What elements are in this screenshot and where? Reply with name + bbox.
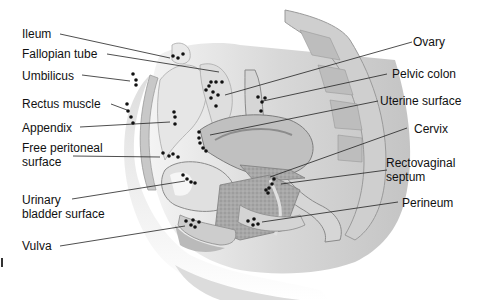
- label-uterine-surface: Uterine surface: [380, 94, 461, 108]
- label-vulva: Vulva: [22, 239, 52, 253]
- label-ovary: Ovary: [413, 35, 445, 49]
- label-fallopian-tube: Fallopian tube: [22, 47, 97, 61]
- label-umbilicus: Umbilicus: [22, 69, 74, 83]
- label-rectovaginal-septum-line1: Rectovaginal: [386, 156, 455, 170]
- label-ileum: Ileum: [22, 27, 51, 41]
- label-perineum: Perineum: [402, 196, 453, 210]
- label-rectovaginal-septum-line2: septum: [386, 170, 425, 184]
- label-pelvic-colon: Pelvic colon: [392, 67, 456, 81]
- label-cervix: Cervix: [414, 122, 448, 136]
- label-urinary-bladder-surface-line2: bladder surface: [22, 207, 105, 221]
- label-appendix: Appendix: [22, 121, 72, 135]
- label-free-peritoneal-surface-line1: Free peritoneal: [22, 141, 103, 155]
- label-urinary-bladder-surface-line1: Urinary: [22, 193, 61, 207]
- edge-mark: [1, 258, 3, 267]
- label-free-peritoneal-surface-line2: surface: [22, 155, 61, 169]
- label-rectus-muscle: Rectus muscle: [22, 97, 101, 111]
